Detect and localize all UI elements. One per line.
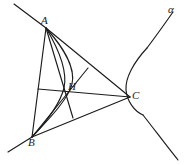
altitude-from-A: [46, 28, 73, 118]
asymptote-upper-right-ray: [147, 12, 173, 48]
orthocenter-label-h: H: [68, 81, 76, 92]
vertex-label-b: B: [28, 137, 35, 148]
altitude-from-C: [38, 89, 130, 97]
curve-label-alpha: α: [168, 4, 174, 15]
hyperbola-left-branch-inner: [32, 28, 65, 137]
side-CA: [46, 28, 130, 97]
vertex-label-c: C: [132, 90, 139, 101]
vertex-label-a: A: [41, 15, 48, 26]
side-AB: [32, 28, 46, 137]
hyperbola-right-branch: [126, 48, 147, 115]
geometry-figure: A B C H α: [0, 0, 192, 165]
altitude-from-B: [32, 68, 88, 137]
side-BC: [32, 97, 130, 137]
asymptote-lower-right-ray: [143, 115, 178, 160]
